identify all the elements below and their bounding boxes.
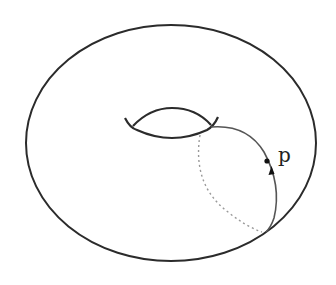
meridian-hidden-dashed: [199, 135, 262, 232]
meridian-visible-arc: [211, 127, 276, 232]
point-p-label: p: [278, 143, 291, 167]
torus-hole-upper-arc: [133, 108, 211, 126]
torus-outer-outline: [26, 25, 316, 261]
meridian-arrowhead-icon: [269, 166, 275, 175]
torus-diagram: p: [0, 0, 336, 285]
point-p: [264, 158, 269, 163]
